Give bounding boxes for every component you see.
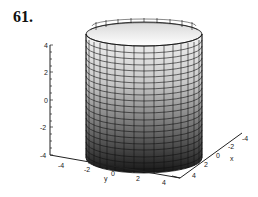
y-tick-label: -2 xyxy=(84,166,90,173)
z-tick-label: -2 xyxy=(40,124,46,131)
z-axis: 4 2 0 -2 -4 xyxy=(40,42,53,159)
x-tick-label: 4 xyxy=(192,172,196,179)
y-tick-label: 0 xyxy=(111,170,115,177)
x-axis-label: x xyxy=(230,155,234,162)
y-tick-label: -4 xyxy=(58,162,64,169)
z-tick-label: -4 xyxy=(40,152,46,159)
x-tick-label: -4 xyxy=(242,135,248,142)
y-axis-label: y xyxy=(104,175,108,183)
cylinder-plot: 4 2 0 -2 -4 xyxy=(0,0,258,197)
x-tick-label: 0 xyxy=(216,152,220,159)
z-tick-label: 4 xyxy=(44,42,48,49)
z-tick-label: 0 xyxy=(44,97,48,104)
x-tick-label: -2 xyxy=(228,143,234,150)
y-tick-label: 4 xyxy=(162,179,166,186)
x-tick-label: 2 xyxy=(204,161,208,168)
cylinder-surface xyxy=(86,18,202,173)
z-tick-label: 2 xyxy=(44,69,48,76)
y-tick-label: 2 xyxy=(136,175,140,182)
